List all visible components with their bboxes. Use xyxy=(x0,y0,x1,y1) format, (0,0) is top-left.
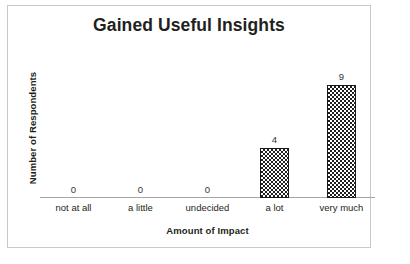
bar-column-very-much: 9 xyxy=(308,56,375,198)
bar-column-a-lot: 4 xyxy=(241,56,308,198)
category-label-a-lot: a lot xyxy=(241,202,308,213)
bar-column-a-little: 0 xyxy=(107,56,174,198)
bar-very-much xyxy=(327,85,356,198)
y-axis-title-wrapper: Number of Respondents xyxy=(24,62,40,194)
bar-value-label: 9 xyxy=(339,72,344,82)
bar-value-label: 0 xyxy=(71,185,76,195)
bar-value-label: 0 xyxy=(138,185,143,195)
category-axis-labels: not at all a little undecided a lot very… xyxy=(40,202,375,213)
bar-column-undecided: 0 xyxy=(174,56,241,198)
category-label-undecided: undecided xyxy=(174,202,241,213)
y-axis-title: Number of Respondents xyxy=(27,72,38,184)
category-label-not-at-all: not at all xyxy=(40,202,107,213)
category-label-a-little: a little xyxy=(107,202,174,213)
bar-a-lot xyxy=(260,148,289,198)
bar-columns: 0 0 0 4 9 xyxy=(40,56,375,198)
category-label-very-much: very much xyxy=(308,202,375,213)
bar-value-label: 0 xyxy=(205,185,210,195)
chart-title: Gained Useful Insights xyxy=(7,16,371,35)
chart-container: Gained Useful Insights Number of Respond… xyxy=(0,0,410,264)
x-axis-title: Amount of Impact xyxy=(40,225,375,236)
bar-value-label: 4 xyxy=(272,135,277,145)
bar-column-not-at-all: 0 xyxy=(40,56,107,198)
